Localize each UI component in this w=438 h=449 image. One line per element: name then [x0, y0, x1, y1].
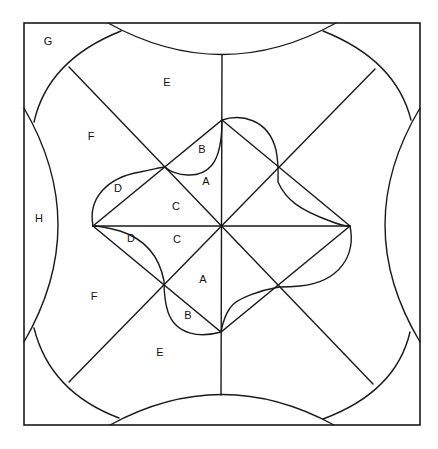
- label-e-top: E: [163, 76, 170, 88]
- label-c-bottom: C: [173, 233, 181, 245]
- corner-arc-top-right: [323, 31, 411, 120]
- label-d-top: D: [114, 182, 122, 194]
- label-e-bottom: E: [156, 346, 163, 358]
- label-f-top: F: [88, 130, 95, 142]
- label-b-top: B: [198, 143, 205, 155]
- quilt-diagram: G E F B A D C H D C A F B E: [0, 0, 438, 449]
- label-g: G: [44, 35, 53, 47]
- left-edge-arc: [24, 108, 58, 342]
- label-a-top: A: [202, 175, 210, 187]
- right-edge-arc: [385, 108, 420, 342]
- label-c-top: C: [172, 200, 180, 212]
- label-f-bottom: F: [91, 290, 98, 302]
- label-d-bottom: D: [127, 232, 135, 244]
- corner-arc-bottom-left: [34, 328, 119, 418]
- label-a-bottom: A: [199, 273, 207, 285]
- bottom-edge-arc: [110, 395, 334, 426]
- top-edge-arc: [108, 23, 336, 55]
- label-h: H: [35, 212, 43, 224]
- label-b-bottom: B: [184, 309, 191, 321]
